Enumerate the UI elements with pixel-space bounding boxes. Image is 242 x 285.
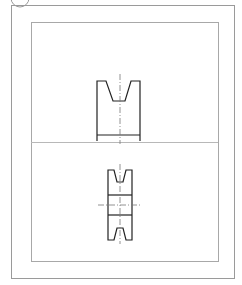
front-view [97, 81, 140, 141]
front-view-outline [97, 81, 140, 141]
drawing-canvas [0, 0, 242, 285]
